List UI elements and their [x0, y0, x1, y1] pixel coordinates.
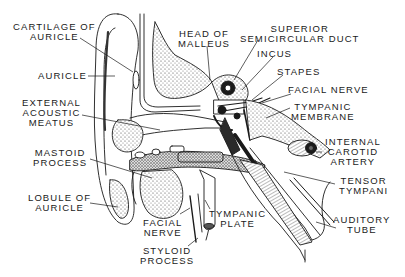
- label-external-acoustic-meatus: EXTERNAL ACOUSTIC MEATUS: [22, 98, 81, 128]
- label-superior-semicircular-duct: SUPERIOR SEMICIRCULAR DUCT: [240, 24, 360, 44]
- label-tensor-tympani: TENSOR TYMPANI: [339, 176, 388, 196]
- label-tympanic-membrane: TYMPANIC MEMBRANE: [291, 102, 355, 122]
- label-internal-carotid-artery: INTERNAL CAROTID ARTERY: [325, 137, 381, 167]
- label-mastoid-process: MASTOID PROCESS: [33, 148, 87, 168]
- label-cartilage-of-auricle: CARTILAGE OF AURICLE: [13, 22, 96, 42]
- label-auricle: AURICLE: [38, 71, 87, 81]
- label-tympanic-plate: TYMPANIC PLATE: [209, 209, 266, 229]
- label-facial-nerve-lower: FACIAL NERVE: [143, 218, 182, 238]
- label-lobule-of-auricle: LOBULE OF AURICLE: [28, 193, 91, 213]
- label-head-of-malleus: HEAD OF MALLEUS: [178, 29, 230, 49]
- carotid-artery-shape: [288, 140, 317, 156]
- label-auditory-tube: AUDITORY TUBE: [333, 215, 391, 235]
- label-incus: INCUS: [257, 49, 292, 59]
- label-stapes: STAPES: [277, 67, 320, 77]
- ear-anatomy-diagram: CARTILAGE OF AURICLE AURICLE EXTERNAL AC…: [0, 0, 405, 277]
- label-styloid-process: STYLOID PROCESS: [140, 246, 194, 266]
- label-facial-nerve-upper: FACIAL NERVE: [288, 85, 369, 95]
